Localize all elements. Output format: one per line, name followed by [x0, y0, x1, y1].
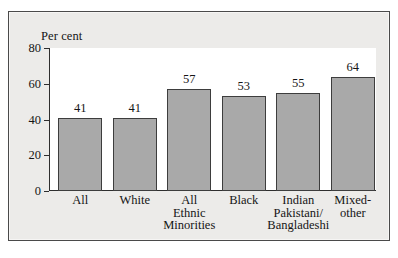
- y-tick-label: 40: [29, 112, 42, 127]
- bar-value-label: 55: [292, 76, 305, 91]
- y-tick-label: 60: [29, 76, 42, 91]
- x-axis-category-label: Mixed- other: [320, 194, 387, 219]
- bar-value-label: 41: [74, 101, 87, 116]
- bar-value-label: 53: [238, 79, 251, 94]
- bar-value-label: 57: [183, 72, 196, 87]
- bar: 57: [167, 89, 211, 191]
- y-tick-mark: [44, 48, 49, 49]
- plot-area: 020406080 41All41White57All Ethnic Minor…: [49, 48, 376, 191]
- y-tick-mark: [44, 84, 49, 85]
- bar: 55: [276, 93, 320, 191]
- y-tick-mark: [44, 191, 49, 192]
- bar: 53: [222, 96, 266, 191]
- y-tick-label: 80: [29, 41, 42, 56]
- bar: 41: [113, 118, 157, 191]
- y-tick-label: 20: [29, 148, 42, 163]
- y-axis-line: [49, 48, 50, 191]
- bar-value-label: 41: [129, 101, 142, 116]
- y-tick-mark: [44, 155, 49, 156]
- y-tick-mark: [44, 120, 49, 121]
- bar-value-label: 64: [347, 60, 360, 75]
- chart-figure: Per cent 020406080 41All41White57All Eth…: [8, 11, 390, 241]
- y-tick-label: 0: [35, 184, 41, 199]
- y-axis-title: Per cent: [41, 29, 82, 44]
- bar: 41: [58, 118, 102, 191]
- bar: 64: [331, 77, 375, 191]
